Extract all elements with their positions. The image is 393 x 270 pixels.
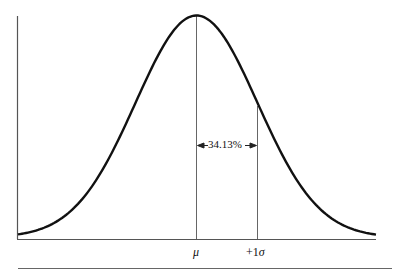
percent-label: 34.13% bbox=[208, 138, 242, 150]
mu-tick-label: μ bbox=[193, 245, 199, 260]
sigma-symbol: σ bbox=[259, 245, 265, 259]
sigma-tick-label: +1σ bbox=[246, 245, 265, 260]
sigma-prefix: +1 bbox=[246, 245, 259, 259]
normal-distribution-diagram bbox=[0, 0, 393, 270]
